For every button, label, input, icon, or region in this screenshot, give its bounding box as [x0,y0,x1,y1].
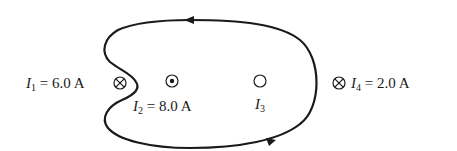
current-label-i4: I4 = 2.0 A [351,76,409,93]
current-label-i1: I1 = 6.0 A [26,76,84,93]
current-subscript: 3 [260,103,265,114]
current-label-i2: I2 = 8.0 A [133,99,191,116]
current-label-i3: I3 [255,97,265,114]
current-unknown-icon [254,75,266,87]
amperian-loop-path [104,20,316,148]
current-value: = 6.0 A [36,75,84,91]
current-value: = 8.0 A [143,98,191,114]
current-into-page-icon [114,77,126,89]
arrow-left-icon [184,16,194,24]
arrow-right-icon [266,138,276,146]
current-into-page-icon [333,77,345,89]
current-out-of-page-icon [166,75,178,87]
current-value: = 2.0 A [361,75,409,91]
